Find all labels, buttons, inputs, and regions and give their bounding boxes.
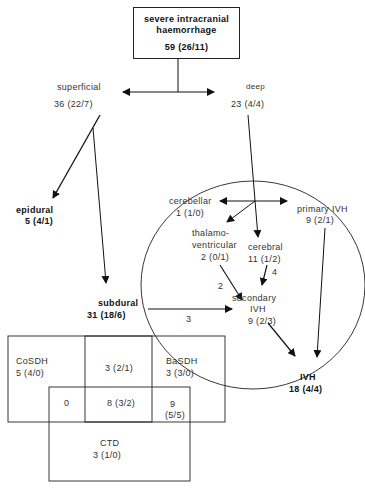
all-three-count: 8 (3/2)	[107, 397, 135, 409]
thalamoventricular-count: 2 (0/1)	[201, 251, 229, 263]
superficial-label: superficial	[57, 81, 101, 93]
edge-label-thalamo-secondary: 2	[218, 280, 223, 292]
deep-label: deep	[246, 81, 265, 93]
cosdh-label: CoSDH	[16, 355, 48, 367]
thalamoventricular-label-line2: ventricular	[192, 239, 237, 251]
edge-label-cerebral-secondary: 4	[272, 266, 277, 278]
secondary-ivh-count: 9 (2/3)	[248, 315, 276, 327]
cosdh-basdh-count: 3 (2/1)	[105, 362, 133, 374]
cosdh-ctd-count: 0	[64, 397, 69, 409]
cosdh-count: 5 (4/0)	[16, 367, 44, 379]
edge-label-subdural-secondary: 3	[186, 313, 191, 325]
thalamoventricular-label-line1: thalamo-	[192, 227, 229, 239]
root-count: 59 (26/11)	[134, 42, 239, 53]
root-title-line1: severe intracranial	[134, 14, 239, 25]
basdh-count: 3 (3/0)	[166, 367, 194, 379]
ivh-count: 18 (4/4)	[289, 383, 322, 395]
epidural-count: 5 (4/1)	[25, 215, 53, 227]
cosdh-box	[8, 336, 152, 422]
cerebral-count: 11 (1/2)	[248, 253, 281, 265]
ivh-label: IVH	[300, 371, 316, 383]
cerebral-label: cerebral	[248, 241, 283, 253]
subdural-count: 31 (18/6)	[87, 309, 126, 321]
primary-ivh-count: 9 (2/1)	[306, 214, 334, 226]
deep-count: 23 (4/4)	[231, 98, 264, 110]
basdh-label: BaSDH	[166, 355, 198, 367]
ctd-count: 3 (1/0)	[93, 449, 121, 461]
cerebellar-count: 1 (1/0)	[176, 207, 204, 219]
root-node-box: severe intracranial haemorrhage 59 (26/1…	[133, 7, 240, 59]
subdural-label: subdural	[98, 297, 138, 309]
cerebellar-label: cerebellar	[169, 195, 212, 207]
ctd-label: CTD	[100, 437, 119, 449]
basdh-ctd-count-line2: (5/5)	[165, 409, 185, 421]
root-title-line2: haemorrhage	[134, 25, 239, 36]
superficial-count: 36 (22/7)	[54, 98, 93, 110]
secondary-ivh-label-line2: IVH	[250, 303, 266, 315]
